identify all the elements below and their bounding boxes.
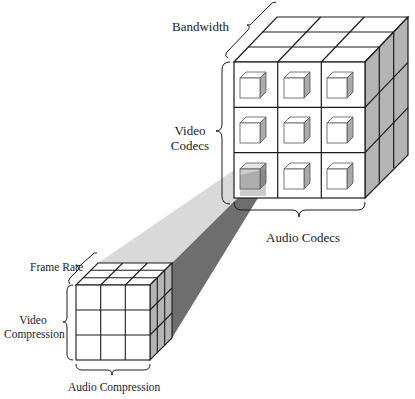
label-frame-rate: Frame Rate — [30, 260, 83, 274]
label-video-compression: Video Compression — [4, 313, 62, 341]
cell-cube — [240, 72, 266, 98]
label-audio-codecs: Audio Codecs — [266, 230, 340, 245]
cell-cube — [240, 117, 266, 143]
label-audio-compression: Audio Compression — [68, 380, 160, 394]
label-video-codecs-line2: Codecs — [163, 138, 217, 153]
cell-cube — [327, 117, 353, 143]
cell-cube — [284, 72, 310, 98]
small-cube — [76, 263, 172, 360]
brace-video-compression — [63, 285, 73, 360]
cell-cube — [284, 163, 310, 189]
small-cube-front-face — [76, 285, 150, 360]
brace-audio-compression — [76, 364, 150, 375]
label-video-compression-line1: Video — [4, 313, 62, 327]
label-bandwidth: Bandwidth — [172, 19, 229, 34]
label-video-compression-line2: Compression — [4, 327, 62, 341]
cell-cube — [284, 117, 310, 143]
cell-cube — [327, 163, 353, 189]
cell-cube — [327, 72, 353, 98]
label-video-codecs: Video Codecs — [163, 123, 217, 153]
label-video-codecs-line1: Video — [163, 123, 217, 138]
